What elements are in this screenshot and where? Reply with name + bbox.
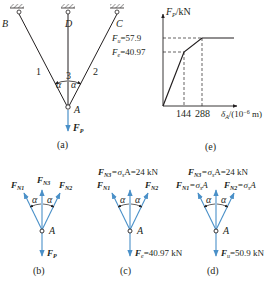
label-alpha-right: α [71, 79, 77, 90]
label-alpha-right: α [47, 194, 53, 205]
label-fn2: FN2 [58, 180, 72, 191]
label-fn3-equation: FN3=σsA=24 kN [97, 167, 159, 178]
label-load-fp: FP [72, 122, 84, 134]
label-joint-a: A [136, 225, 144, 236]
joint-a [128, 229, 132, 233]
caption-e: (e) [205, 141, 216, 153]
label-alpha-left: α [32, 194, 38, 205]
label-alpha-left: α [56, 79, 62, 90]
label-alpha-right: α [135, 194, 141, 205]
label-d: D [64, 18, 73, 29]
label-joint-a: A [222, 225, 230, 236]
label-c: C [116, 18, 123, 29]
bar-1 [19, 14, 67, 106]
panel-a-truss: B D C 1 3 2 α α A FP (a) [2, 4, 124, 151]
load-displacement-curve [163, 38, 234, 106]
x-tick-288: 288 [195, 108, 210, 119]
support-b [10, 4, 24, 14]
label-fu-equation: Fu=50.9 kN [220, 248, 265, 259]
label-fe-equation: Fe=40.97 kN [134, 248, 183, 259]
label-fn2: FN2 [144, 180, 158, 191]
label-alpha-left: α [120, 194, 126, 205]
caption-a: (a) [57, 139, 68, 151]
label-fn3-equation: FN3=σsA=24 kN [187, 167, 249, 178]
caption-c: (c) [120, 265, 131, 277]
label-fn3: FN3 [36, 175, 50, 186]
support-c [110, 4, 124, 14]
panel-c-fbd: FN3=σsA=24 kN FN1 FN2 α α A Fe=40.97 kN … [96, 167, 183, 277]
label-joint-a: A [48, 225, 56, 236]
support-d [61, 4, 75, 14]
label-joint-a: A [73, 104, 81, 115]
y-tick-fe: Fe=40.97 [111, 47, 146, 58]
y-axis-label: FP/kN [165, 6, 191, 18]
y-tick-fu: Fu=57.9 [111, 33, 142, 44]
label-fn2-equation: FN2=σsA [223, 180, 256, 191]
label-bar-2: 2 [93, 66, 98, 77]
caption-b: (b) [33, 265, 45, 277]
panel-d-fbd: FN3=σsA=24 kN FN1=σsA FN2=σsA α α A Fu=5… [175, 167, 265, 277]
label-fp: FP [46, 248, 57, 259]
caption-d: (d) [207, 265, 219, 277]
label-alpha-left: α [206, 194, 212, 205]
label-fn1: FN1 [96, 180, 110, 191]
label-fn1: FN1 [10, 180, 24, 191]
joint-a [40, 229, 44, 233]
label-fn1-equation: FN1=σsA [175, 180, 208, 191]
x-axis-label: δA/(10−6 m) [221, 109, 262, 120]
panel-e-chart: FP/kN Fu=57.9 Fe=40.97 144 288 δA/(10−6 … [111, 6, 262, 153]
x-tick-144: 144 [176, 108, 191, 119]
label-alpha-right: α [221, 194, 227, 205]
joint-a [66, 105, 70, 109]
joint-a [214, 229, 218, 233]
label-b: B [2, 18, 8, 29]
bar-2 [69, 14, 117, 106]
panel-b-fbd: FN1 FN3 FN2 α α A FP (b) [10, 175, 72, 277]
figure-canvas: B D C 1 3 2 α α A FP (a) FP/kN Fu=57.9 F… [0, 0, 276, 289]
label-bar-1: 1 [36, 66, 41, 77]
